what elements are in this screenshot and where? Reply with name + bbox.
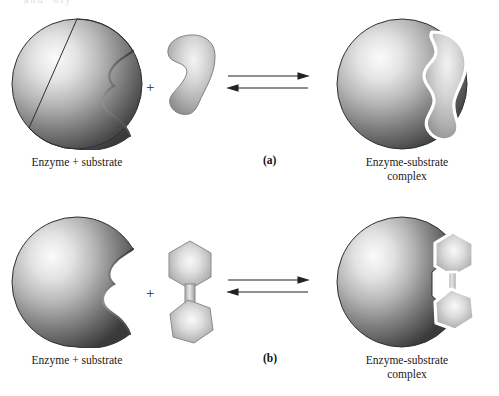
panel-a-substrate-crescent bbox=[163, 32, 219, 118]
panel-b-induced-fit: + bbox=[0, 198, 499, 396]
panel-b-enzyme-sphere-notched bbox=[11, 216, 143, 348]
panel-b-label: (b) bbox=[263, 352, 277, 364]
enzyme-substrate-complex-crescent-icon bbox=[336, 18, 478, 150]
panel-a-right-caption: Enzyme-substrate complex bbox=[332, 155, 482, 184]
panel-b-left-caption: Enzyme + substrate bbox=[7, 353, 147, 367]
panel-a-enzyme-sphere-notched bbox=[11, 18, 143, 150]
enzyme-substrate-complex-dumbbell-icon bbox=[336, 216, 478, 348]
panel-a-label: (a) bbox=[263, 154, 276, 166]
panel-a-equilibrium-arrows bbox=[226, 70, 310, 96]
panel-b-equilibrium-arrows bbox=[226, 274, 310, 300]
panel-b-right-caption: Enzyme-substrate complex bbox=[332, 353, 482, 382]
enzyme-sphere-notched-icon bbox=[11, 216, 143, 348]
substrate-crescent-icon bbox=[163, 32, 219, 118]
enzyme-substrate-figure: and ​ oly​ bbox=[0, 0, 499, 396]
panel-b-plus-sign: + bbox=[146, 286, 154, 301]
equilibrium-arrows-icon bbox=[226, 274, 310, 300]
panel-a-lock-and-key: + bbox=[0, 0, 499, 198]
panel-a-complex bbox=[336, 18, 468, 150]
panel-a-plus-sign: + bbox=[146, 80, 154, 95]
panel-a-left-caption: Enzyme + substrate bbox=[7, 155, 147, 169]
panel-b-complex bbox=[336, 216, 468, 348]
panel-b-substrate-dumbbell-hexagons bbox=[161, 238, 219, 348]
enzyme-sphere-notched-icon bbox=[11, 18, 143, 150]
substrate-dumbbell-hexagons-icon bbox=[161, 238, 219, 348]
equilibrium-arrows-icon bbox=[226, 70, 310, 96]
